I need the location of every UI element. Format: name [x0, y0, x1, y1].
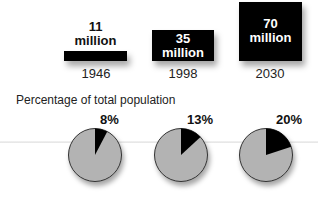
bar-unit-2030: million	[239, 31, 302, 45]
bar-value-1998: 35	[152, 32, 214, 46]
bar-value-1946: 11	[64, 20, 127, 34]
pie-chart-1998	[153, 127, 209, 183]
bar-label-1946: 11 million	[64, 20, 127, 48]
year-label-1946: 1946	[64, 66, 128, 81]
pie-chart-1946	[67, 127, 123, 183]
bar-unit-1946: million	[64, 34, 127, 48]
bar-label-1998: 35 million	[152, 32, 214, 60]
pie-chart-2030	[238, 127, 294, 183]
pie-section-title: Percentage of total population	[16, 93, 175, 107]
bar-value-2030: 70	[239, 17, 302, 31]
year-label-2030: 2030	[238, 66, 302, 81]
bar-1946	[64, 51, 127, 61]
bar-unit-1998: million	[152, 46, 214, 60]
pie-label-2030: 20%	[276, 112, 302, 127]
year-label-1998: 1998	[151, 66, 215, 81]
pie-label-1946: 8%	[100, 112, 119, 127]
bar-label-2030: 70 million	[239, 17, 302, 45]
pie-label-1998: 13%	[187, 112, 213, 127]
